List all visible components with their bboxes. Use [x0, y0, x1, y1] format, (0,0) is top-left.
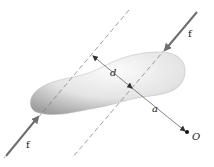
force-arrow-top [165, 12, 197, 50]
couple-diagram: f f d a O [0, 0, 214, 167]
label-arm-a: a [152, 103, 158, 114]
point-o-marker [185, 130, 189, 134]
label-force-bottom: f [26, 139, 31, 150]
force-arrow-bottom [6, 117, 38, 156]
label-force-top: f [188, 28, 193, 39]
rigid-body [30, 52, 185, 115]
label-distance-d: d [110, 67, 116, 78]
label-point-o: O [192, 131, 200, 142]
